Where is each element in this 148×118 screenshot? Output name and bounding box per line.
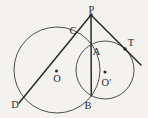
label-D: D [11,99,19,110]
label-A: A [93,46,101,57]
label-O: O [53,73,61,84]
label-T: T [128,37,135,48]
geometry-diagram: PCTAOO′BD [0,0,148,118]
two-circles-diagram-canvas: PCTAOO′BD [0,0,148,118]
center-dot-O-prime [104,71,107,74]
tangent-point-dot-T [123,47,126,50]
label-B: B [84,100,91,111]
figure-background [0,0,148,118]
label-O-prime: O′ [102,77,112,88]
label-C: C [69,25,76,36]
label-P: P [89,4,95,15]
